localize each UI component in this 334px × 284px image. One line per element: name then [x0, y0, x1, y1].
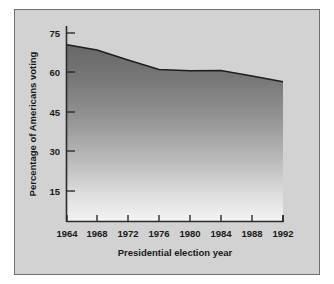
x-axis-title: Presidential election year — [118, 247, 233, 258]
y-tick-label-15: 15 — [49, 186, 60, 197]
x-tick-label-1980: 1980 — [179, 228, 200, 239]
x-tick-label-1972: 1972 — [117, 228, 138, 239]
y-tick-label-30: 30 — [49, 146, 60, 157]
x-tick-label-1964: 1964 — [56, 228, 78, 239]
y-tick-label-75: 75 — [49, 28, 60, 39]
x-tick-label-1976: 1976 — [148, 228, 169, 239]
y-axis-tick-labels: 75 60 45 30 15 — [49, 28, 60, 197]
y-tick-label-45: 45 — [49, 107, 60, 118]
x-tick-label-1968: 1968 — [86, 228, 107, 239]
series-area-voter-turnout — [67, 45, 283, 222]
x-axis-tick-labels: 1964 1968 1972 1976 1980 1984 1988 1992 — [56, 228, 293, 239]
y-tick-label-60: 60 — [49, 67, 60, 78]
chart-plot-area: 75 60 45 30 15 1964 1968 1972 1976 1980 … — [0, 0, 334, 284]
x-tick-label-1992: 1992 — [272, 228, 293, 239]
x-tick-label-1984: 1984 — [210, 228, 232, 239]
x-tick-label-1988: 1988 — [241, 228, 262, 239]
chart-figure: 75 60 45 30 15 1964 1968 1972 1976 1980 … — [0, 0, 334, 284]
y-axis-title: Percentage of Americans voting — [27, 51, 38, 196]
